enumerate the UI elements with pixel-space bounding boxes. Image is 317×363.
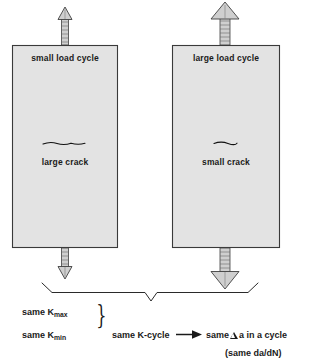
right-specimen-group	[173, 2, 280, 289]
kmax-subscript: max	[54, 311, 68, 318]
left-load-cycle-label: small load cycle	[12, 53, 118, 63]
diagram-canvas: small load cycle large crack large load …	[0, 0, 317, 363]
kmax-term: same Kmax	[22, 307, 68, 318]
k-terms-brace: }	[96, 302, 106, 328]
result-label: samea in a cycle	[206, 330, 287, 340]
left-specimen-group	[13, 7, 118, 279]
down-arrow-large-icon	[211, 248, 239, 289]
result-note: (same da/dN)	[225, 348, 282, 358]
result-suffix: a in a cycle	[239, 330, 287, 340]
right-specimen-body	[173, 46, 280, 248]
right-crack-label: small crack	[172, 157, 280, 167]
up-arrow-small-icon	[58, 7, 72, 45]
left-crack-label: large crack	[12, 157, 118, 167]
kmin-term: same Kmin	[22, 330, 66, 341]
delta-triangle-icon	[230, 332, 238, 339]
up-arrow-large-icon	[211, 2, 239, 45]
implication-arrow-icon	[176, 330, 202, 338]
down-arrow-small-icon	[58, 248, 72, 279]
right-load-cycle-label: large load cycle	[172, 53, 280, 63]
result-prefix: same	[206, 330, 229, 340]
left-specimen-body	[13, 46, 118, 248]
kmax-prefix: same K	[22, 307, 54, 317]
kmin-prefix: same K	[22, 330, 54, 340]
k-cycle-label: same K-cycle	[112, 330, 170, 340]
kmin-subscript: min	[54, 334, 66, 341]
